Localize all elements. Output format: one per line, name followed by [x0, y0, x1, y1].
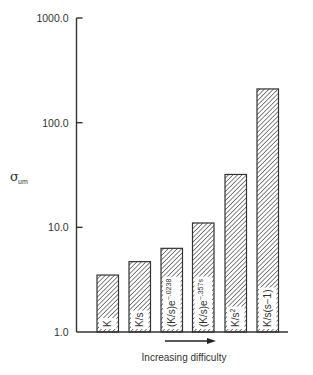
bar-label: (K/s)e−.357s — [195, 277, 213, 329]
bar-1: K — [97, 275, 119, 332]
svg-text:K: K — [102, 320, 113, 327]
bar-6: K/s(s−1) — [257, 89, 279, 332]
bar-label: K — [99, 318, 117, 329]
bar-label: K/s2 — [227, 307, 245, 329]
y-tick-label: 1.0 — [54, 326, 69, 338]
bar-chart: 1.010.0100.01000.0 σum KK/s(K/s)e−.0238(… — [0, 0, 313, 375]
y-tick-label: 100.0 — [42, 117, 68, 129]
difficulty-annotation: Increasing difficulty — [142, 338, 227, 363]
svg-text:K/s: K/s — [134, 313, 145, 327]
bar-label: (K/s)e−.0238 — [163, 277, 181, 329]
y-tick-label: 1000.0 — [36, 12, 68, 24]
bars: KK/s(K/s)e−.0238(K/s)e−.357sK/s2K/s(s−1) — [97, 89, 279, 332]
bar-3: (K/s)e−.0238 — [161, 248, 183, 332]
x-axis-label: Increasing difficulty — [142, 352, 227, 363]
bar-label: K/s(s−1) — [259, 287, 277, 329]
y-axis-label: σum — [10, 169, 28, 185]
svg-text:K/s(s−1): K/s(s−1) — [262, 289, 273, 327]
bar-label: K/s — [131, 311, 149, 329]
y-tick-label: 10.0 — [48, 221, 69, 233]
arrow-right-icon — [207, 338, 216, 344]
bar-5: K/s2 — [225, 174, 247, 332]
y-axis: 1.010.0100.01000.0 — [36, 12, 82, 338]
bar-2: K/s — [129, 262, 151, 332]
y-label-sub: um — [18, 178, 28, 185]
bar-4: (K/s)e−.357s — [193, 223, 215, 332]
